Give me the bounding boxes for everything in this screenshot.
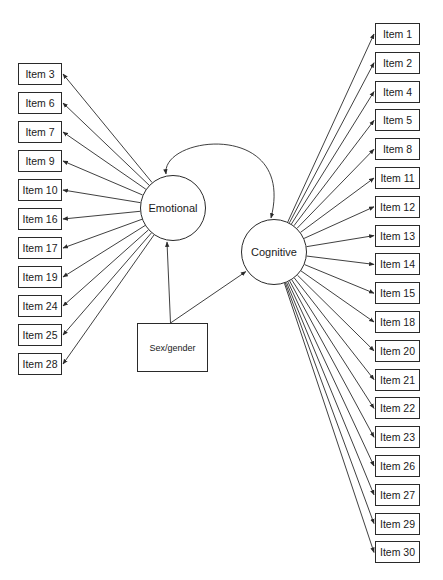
indicator-box-label: Item 9 (25, 155, 54, 167)
indicator-box-label: Item 8 (383, 143, 412, 155)
indicator-box-label: Item 23 (380, 431, 415, 443)
indicator-box: Item 12 (375, 196, 420, 218)
latent-factor-cognitive: Cognitive (241, 219, 307, 285)
indicator-box-label: Item 10 (22, 184, 57, 196)
indicator-box: Item 21 (375, 369, 420, 391)
indicator-box-label: Item 11 (380, 172, 414, 184)
indicator-box: Item 15 (375, 282, 420, 304)
indicator-box: Item 22 (375, 397, 420, 419)
indicator-box-label: Item 21 (380, 374, 415, 386)
indicator-box-label: Item 30 (380, 546, 415, 558)
indicator-box-label: Item 26 (380, 460, 415, 472)
covariate-box-label: Sex/gender (149, 343, 195, 353)
indicator-box-label: Item 18 (380, 316, 415, 328)
indicator-box: Item 2 (375, 52, 420, 74)
indicator-box: Item 17 (18, 237, 62, 259)
indicator-box: Item 5 (375, 109, 420, 131)
indicator-box-label: Item 20 (380, 345, 415, 357)
indicator-box-label: Item 17 (22, 242, 57, 254)
latent-factor-emotional-label: Emotional (149, 202, 198, 214)
indicator-box: Item 13 (375, 225, 420, 247)
indicator-box-label: Item 16 (22, 213, 57, 225)
indicator-box-label: Item 27 (380, 489, 415, 501)
indicator-box: Item 6 (18, 92, 62, 114)
indicator-box: Item 23 (375, 426, 420, 448)
indicator-box-label: Item 13 (380, 230, 415, 242)
latent-factor-cognitive-label: Cognitive (251, 246, 297, 258)
indicator-box-label: Item 15 (380, 287, 415, 299)
indicator-box: Item 10 (18, 179, 62, 201)
indicator-box-label: Item 6 (25, 97, 54, 109)
indicator-box: Item 20 (375, 340, 420, 362)
indicator-box: Item 27 (375, 484, 420, 506)
indicator-box: Item 4 (375, 81, 420, 103)
indicator-box: Item 28 (18, 353, 62, 375)
indicator-box: Item 9 (18, 150, 62, 172)
indicator-box: Item 7 (18, 121, 62, 143)
indicator-box-label: Item 22 (380, 402, 415, 414)
indicator-box: Item 25 (18, 324, 62, 346)
indicator-box-label: Item 4 (383, 86, 412, 98)
indicator-box-label: Item 25 (22, 329, 57, 341)
indicator-box-label: Item 5 (383, 114, 412, 126)
indicator-box: Item 11 (375, 167, 420, 189)
indicator-box: Item 16 (18, 208, 62, 230)
indicator-box-label: Item 28 (22, 358, 57, 370)
indicator-box-label: Item 3 (25, 68, 54, 80)
indicator-box-label: Item 1 (383, 28, 412, 40)
indicator-box: Item 24 (18, 295, 62, 317)
indicator-box-label: Item 19 (22, 271, 57, 283)
indicator-box: Item 26 (375, 455, 420, 477)
indicator-box-label: Item 29 (380, 518, 415, 530)
indicator-box: Item 29 (375, 513, 420, 535)
latent-factor-emotional: Emotional (140, 175, 206, 241)
indicator-box-label: Item 24 (22, 300, 57, 312)
indicator-box-label: Item 7 (25, 126, 54, 138)
indicator-box-label: Item 2 (383, 57, 412, 69)
indicator-box: Item 1 (375, 23, 420, 45)
indicator-box: Item 14 (375, 253, 420, 275)
indicator-box: Item 3 (18, 63, 62, 85)
indicator-box: Item 19 (18, 266, 62, 288)
indicator-box-label: Item 14 (380, 258, 415, 270)
indicator-box: Item 8 (375, 138, 420, 160)
indicator-box-label: Item 12 (380, 201, 415, 213)
covariate-box: Sex/gender (137, 323, 208, 372)
indicator-box: Item 30 (375, 541, 420, 563)
indicator-box: Item 18 (375, 311, 420, 333)
